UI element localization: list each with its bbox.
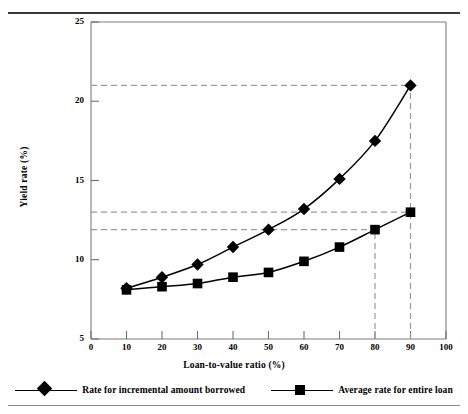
data-point-diamond xyxy=(191,258,203,270)
data-point-diamond xyxy=(404,79,416,91)
y-tick-label: 25 xyxy=(58,16,84,26)
data-point-diamond xyxy=(227,241,239,253)
y-axis-title: Yield rate (%) xyxy=(19,107,29,247)
x-tick-label: 10 xyxy=(112,342,142,352)
legend-label: Rate for incremental amount borrowed xyxy=(82,385,245,395)
x-tick-label: 70 xyxy=(325,342,355,352)
y-tick-label: 10 xyxy=(58,254,84,264)
diamond-marker-icon xyxy=(15,383,77,397)
plot-frame xyxy=(91,22,446,339)
data-point-square xyxy=(157,282,167,292)
x-tick-label: 100 xyxy=(431,342,461,352)
data-point-square xyxy=(122,285,132,295)
x-tick-label: 60 xyxy=(289,342,319,352)
data-point-diamond xyxy=(262,223,274,235)
chart-legend: Rate for incremental amount borrowed Ave… xyxy=(0,378,468,402)
data-point-square xyxy=(406,207,416,217)
chart-figure: Yield rate (%) Loan-to-value ratio (%) 0… xyxy=(0,0,468,414)
y-tick-label: 20 xyxy=(58,95,84,105)
y-axis-title-wrap: Yield rate (%) xyxy=(0,0,40,340)
series-line xyxy=(127,85,411,288)
y-tick-label: 15 xyxy=(58,175,84,185)
data-point-diamond xyxy=(156,271,168,283)
data-point-diamond xyxy=(298,203,310,215)
data-point-square xyxy=(264,268,274,278)
data-point-square xyxy=(335,242,345,252)
legend-label: Average rate for entire loan xyxy=(338,385,453,395)
data-point-square xyxy=(299,257,309,267)
data-point-square xyxy=(193,279,203,289)
x-tick-label: 30 xyxy=(183,342,213,352)
series-layer xyxy=(120,79,416,294)
x-tick-label: 40 xyxy=(218,342,248,352)
bottom-divider xyxy=(8,405,460,406)
x-tick-label: 20 xyxy=(147,342,177,352)
legend-entry-average: Average rate for entire loan xyxy=(271,383,453,397)
data-point-square xyxy=(228,272,238,282)
x-tick-label: 90 xyxy=(396,342,426,352)
legend-entry-incremental: Rate for incremental amount borrowed xyxy=(15,383,245,397)
y-axis-ticks xyxy=(91,22,99,339)
square-marker-icon xyxy=(271,383,333,397)
x-tick-label: 0 xyxy=(76,342,106,352)
x-axis-ticks xyxy=(91,331,446,339)
x-axis-title: Loan-to-value ratio (%) xyxy=(0,360,468,370)
x-tick-label: 80 xyxy=(360,342,390,352)
x-tick-label: 50 xyxy=(254,342,284,352)
y-tick-label: 5 xyxy=(58,333,84,343)
reference-guide-lines xyxy=(91,85,411,339)
data-point-square xyxy=(370,225,380,235)
